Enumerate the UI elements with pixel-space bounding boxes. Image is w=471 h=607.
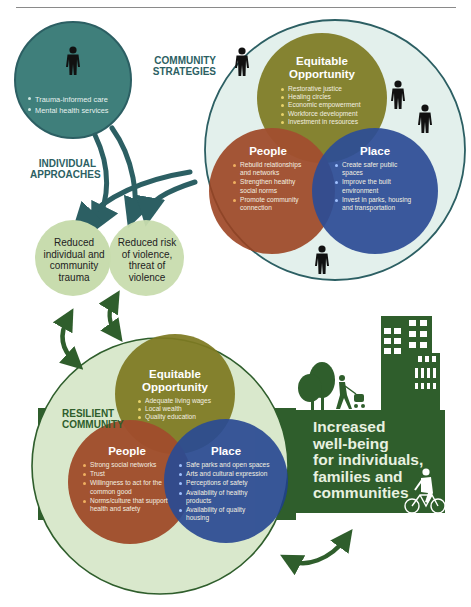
person-icon — [315, 245, 329, 274]
outcome-line: violence — [111, 272, 183, 284]
title-line: Equitable — [125, 368, 225, 381]
resilient-people-list: Strong social networks Trust Willingness… — [82, 461, 168, 513]
list-item: Workforce development — [280, 110, 380, 118]
list-item: Trust — [82, 470, 168, 478]
person-icon — [235, 47, 249, 76]
list-item: Rebuild relationships and networks — [232, 161, 304, 177]
community-equitable-title: Equitable Opportunity — [272, 55, 372, 81]
list-item: Adequate living wages — [137, 397, 227, 405]
outcome-line: Reduced — [38, 237, 110, 249]
outcome-line: of violence, — [111, 249, 183, 261]
resilient-community-label: RESILIENT COMMUNITY — [62, 408, 132, 430]
title-line: Opportunity — [272, 68, 372, 81]
label-line: RESILIENT — [62, 408, 132, 419]
list-item: Perceptions of safety — [178, 479, 270, 487]
wellbeing-line: communities — [313, 485, 453, 502]
label-line: COMMUNITY — [62, 419, 132, 430]
community-strategies-label: COMMUNITY STRATEGIES — [150, 55, 216, 77]
title-line: Equitable — [272, 55, 372, 68]
individual-approaches-list: Trauma-informed care Mental health servi… — [27, 94, 109, 116]
list-item: Availability of healthy products — [178, 489, 270, 505]
list-item: Safe parks and open spaces — [178, 461, 270, 469]
list-item: Quality education — [137, 413, 227, 421]
person-icon — [66, 46, 80, 75]
list-item: Arts and cultural expression — [178, 470, 270, 478]
community-place-list: Create safer public spaces Improve the b… — [334, 161, 416, 212]
list-item: Restorative justice — [280, 85, 380, 93]
outcome-line: individual and — [38, 249, 110, 261]
community-people-title: People — [238, 145, 298, 158]
list-item: Healing circles — [280, 93, 380, 101]
list-item: Strong social networks — [82, 461, 168, 469]
person-icon — [418, 104, 432, 133]
outcome-line: trauma — [38, 272, 110, 284]
wellbeing-line: Increased — [313, 419, 453, 436]
list-item: Local wealth — [137, 405, 227, 413]
wellbeing-line: for individuals, — [313, 452, 453, 469]
list-item: Strengthen healthy social norms — [232, 178, 304, 194]
resilient-equitable-title: Equitable Opportunity — [125, 368, 225, 394]
resilient-equitable-list: Adequate living wages Local wealth Quali… — [137, 397, 227, 422]
person-icon — [391, 80, 405, 109]
list-item: Create safer public spaces — [334, 161, 416, 177]
individual-approaches-label: INDIVIDUAL APPROACHES — [30, 158, 96, 180]
resilient-people-title: People — [97, 445, 157, 458]
outcome-violence: Reduced risk of violence, threat of viol… — [111, 237, 183, 283]
list-item: Norms/culture that support health and sa… — [82, 497, 168, 513]
title-line: Opportunity — [125, 381, 225, 394]
list-item: Mental health services — [27, 105, 109, 116]
list-item: Improve the built environment — [334, 178, 416, 194]
wellbeing-text: Increased well-being for individuals, fa… — [313, 419, 453, 502]
resilient-place-list: Safe parks and open spaces Arts and cult… — [178, 461, 270, 522]
wellbeing-line: families and — [313, 469, 453, 486]
label-line: COMMUNITY — [150, 55, 216, 66]
community-equitable-list: Restorative justice Healing circles Econ… — [280, 85, 380, 126]
label-line: STRATEGIES — [150, 66, 216, 77]
list-item: Trauma-informed care — [27, 94, 109, 105]
list-item: Economic empowerment — [280, 101, 380, 109]
community-place-title: Place — [345, 145, 405, 158]
list-item: Invest in parks, housing and transportat… — [334, 196, 416, 212]
list-item: Availability of quality housing — [178, 506, 270, 522]
list-item: Promote community connection — [232, 196, 304, 212]
label-line: APPROACHES — [30, 169, 96, 180]
wellbeing-line: well-being — [313, 436, 453, 453]
outcome-line: Reduced risk — [111, 237, 183, 249]
list-item: Investment in resources — [280, 118, 380, 126]
resilient-place-title: Place — [196, 445, 256, 458]
label-line: INDIVIDUAL — [30, 158, 96, 169]
outcome-line: community — [38, 260, 110, 272]
list-item: Willingness to act for the common good — [82, 479, 168, 495]
community-people-list: Rebuild relationships and networks Stren… — [232, 161, 304, 212]
outcome-trauma: Reduced individual and community trauma — [38, 237, 110, 283]
outcome-line: threat of — [111, 260, 183, 272]
